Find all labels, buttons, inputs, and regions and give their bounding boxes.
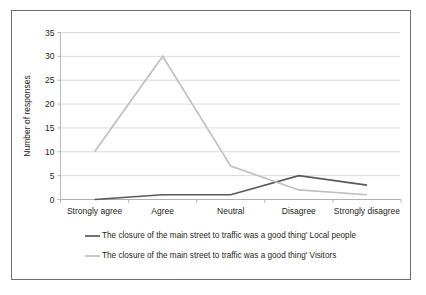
x-category-label: Neutral	[217, 206, 245, 216]
y-tick-labels-group: 05101520253035	[45, 28, 55, 205]
x-tick-labels-group: Strongly agreeAgreeNeutralDisagreeStrong…	[67, 206, 400, 216]
y-tick-label: 10	[45, 147, 55, 157]
legend: The closure of the main street to traffi…	[85, 231, 356, 260]
y-tick-label: 25	[45, 75, 55, 85]
series-line-local-people	[95, 176, 367, 200]
x-category-label: Strongly agree	[67, 206, 123, 216]
y-tick-label: 20	[45, 99, 55, 109]
x-tick-marks-group	[61, 200, 402, 204]
line-chart: 05101520253035 Strongly agreeAgreeNeutra…	[0, 0, 426, 295]
legend-label: The closure of the main street to traffi…	[102, 231, 356, 240]
legend-label: The closure of the main street to traffi…	[102, 251, 336, 260]
y-tick-label: 0	[50, 195, 55, 205]
figure: 05101520253035 Strongly agreeAgreeNeutra…	[0, 0, 426, 295]
y-tick-label: 5	[50, 171, 55, 181]
series-line-visitors	[95, 56, 367, 194]
x-category-label: Strongly disagree	[334, 206, 400, 216]
x-category-label: Agree	[151, 206, 174, 216]
y-tick-label: 15	[45, 123, 55, 133]
x-category-label: Disagree	[282, 206, 316, 216]
y-tick-label: 30	[45, 51, 55, 61]
y-tick-label: 35	[45, 28, 55, 38]
y-axis-title: Number of responses	[22, 75, 32, 156]
y-tick-marks-group	[58, 33, 61, 200]
gridlines-group	[61, 33, 401, 200]
